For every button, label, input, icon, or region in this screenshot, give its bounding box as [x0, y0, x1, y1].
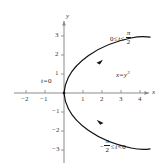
- t-equals-zero-annotation: t=0: [41, 78, 51, 85]
- lower-parameter-range-annotation: −π2≤t<0: [100, 138, 126, 154]
- x-tick-label-2: 2: [100, 96, 104, 103]
- x-tick-label--1: −1: [40, 96, 47, 103]
- y-tick-label--1: −1: [52, 108, 59, 115]
- x-axis-label: x: [152, 89, 155, 96]
- y-tick-label--3: −3: [52, 146, 59, 153]
- x-tick-label--2: −2: [21, 96, 28, 103]
- parametric-curve-figure: −2 −1 1 2 3 4 3 2 1 −1 −2 −3 x y t=0 0≤t…: [0, 0, 160, 168]
- upper-range-fraction: π2: [126, 30, 132, 46]
- equation-rhs-exponent: 2: [127, 70, 130, 75]
- x-tick-label-3: 3: [119, 96, 123, 103]
- plot-canvas: [0, 0, 160, 168]
- lower-range-minus-sign: −: [100, 143, 104, 151]
- y-tick-label--2: −2: [52, 127, 59, 134]
- y-tick-label-1: 1: [55, 70, 59, 77]
- x-tick-label-1: 1: [81, 96, 85, 103]
- y-tick-label-2: 2: [55, 51, 59, 58]
- upper-range-lower-bound: 0: [110, 35, 114, 43]
- origin-point-marker: [63, 92, 66, 95]
- curve-equation-annotation: x=y2: [116, 70, 130, 79]
- upper-range-frac-denominator: 2: [126, 38, 132, 45]
- upper-parameter-range-annotation: 0≤t≤π2: [110, 30, 132, 46]
- y-axis-label: y: [66, 13, 69, 20]
- curve-upper-branch: [64, 37, 150, 93]
- x-tick-label-4: 4: [138, 96, 142, 103]
- t-value: 0: [48, 77, 52, 85]
- upper-range-rel2: ≤: [120, 35, 125, 43]
- lower-range-upper-bound: 0: [122, 143, 126, 151]
- y-tick-label-3: 3: [55, 32, 59, 39]
